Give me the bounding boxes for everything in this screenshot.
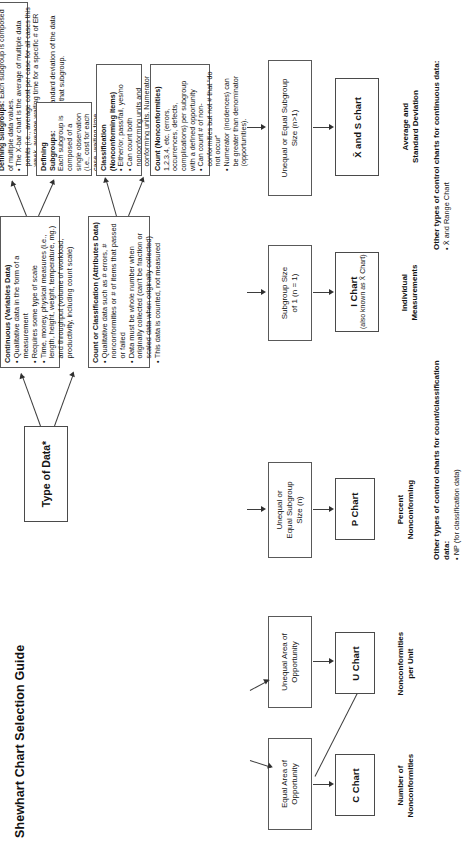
caption-u-chart: Nonconformities per Unit (380, 624, 432, 704)
connector-equal-area-to-c-chart (313, 784, 329, 785)
node-subgroup-size-n-label: Unequal or Equal Subgroup Size (n) (275, 481, 305, 538)
arrow-c-chart (329, 781, 334, 787)
node-subgroup-size-n-gt-1-label: Unequal or Equal Subgroup Size (n>1) (280, 79, 300, 178)
connector-size-n-1-to-i-chart (313, 292, 329, 293)
connector-unequal-area-to-u-chart (313, 661, 329, 662)
caption-i-chart: Individual Measurements (384, 248, 436, 338)
chart-p-chart-label: P Chart (350, 492, 361, 526)
note-count-classification-item-0: NP (for classification data) (452, 360, 462, 560)
chart-xbar-s-chart[interactable]: X̄ and S chart (335, 78, 379, 176)
node-subgroup-size-n-gt-1[interactable]: Unequal or Equal Subgroup Size (n>1) (268, 60, 312, 196)
caption-i-chart-text: Individual Measurements (400, 265, 419, 321)
node-equal-area[interactable]: Equal Area of Opportunity (268, 738, 312, 830)
note-continuous-item-0: X̄ and Range Chart (442, 50, 452, 250)
note-count-classification-heading: Other types of control charts for count/… (432, 360, 452, 560)
arrow-p-chart (329, 506, 334, 512)
chart-p-chart[interactable]: P Chart (335, 478, 375, 540)
caption-c-chart-text: Number of Nonconformities (396, 754, 415, 818)
caption-c-chart: Number of Nonconformities (380, 746, 432, 826)
caption-p-chart-text: Percent Nonconforming (396, 480, 415, 540)
chart-i-chart-sub: (also known as X̄ Chart) (359, 255, 367, 330)
node-unequal-area[interactable]: Unequal Area of Opportunity (268, 616, 312, 708)
node-unequal-area-label: Unequal Area of Opportunity (280, 633, 300, 690)
arrow-size-n (261, 506, 266, 512)
connector-classification-to-size-n (247, 509, 261, 510)
node-equal-area-label: Equal Area of Opportunity (280, 760, 300, 808)
note-continuous: Other types of control charts for contin… (432, 50, 472, 250)
caption-xbar-s-chart: Average and Standard Deviation (384, 72, 436, 182)
connector-size-n-gt-1-to-xbar-s (313, 127, 329, 128)
chart-c-chart-label: C Chart (350, 768, 361, 802)
node-subgroup-size-n-1[interactable]: Subgroup Size of 1 (n = 1) (268, 245, 312, 341)
chart-c-chart[interactable]: C Chart (335, 754, 375, 816)
node-subgroup-size-n[interactable]: Unequal or Equal Subgroup Size (n) (268, 462, 312, 558)
caption-u-chart-text: Nonconformities per Unit (396, 632, 415, 696)
arrow-xbar-s (329, 124, 334, 130)
connector-single-to-size-n-1 (247, 292, 261, 293)
arrow-u-chart (329, 658, 334, 664)
chart-u-chart[interactable]: U Chart (335, 632, 375, 694)
connector-size-n-to-p-chart (313, 509, 329, 510)
note-count-classification: Other types of control charts for count/… (432, 360, 472, 560)
note-continuous-heading: Other types of control charts for contin… (432, 50, 442, 250)
diagram-right-column: Unequal or Equal Subgroup Size (n>1) Sub… (0, 0, 476, 852)
chart-xbar-s-chart-label: X̄ and S chart (352, 97, 363, 158)
node-subgroup-size-n-1-label: Subgroup Size of 1 (n = 1) (280, 267, 300, 319)
chart-i-chart[interactable]: I Chart(also known as X̄ Chart) (335, 252, 379, 332)
chart-u-chart-label: U Chart (350, 646, 361, 680)
caption-xbar-s-chart-text: Average and Standard Deviation (400, 91, 419, 164)
chart-i-chart-label: I Chart(also known as X̄ Chart) (347, 255, 366, 330)
chart-i-chart-name: I Chart (347, 277, 358, 307)
caption-p-chart: Percent Nonconforming (380, 470, 432, 550)
arrow-i-chart (329, 289, 334, 295)
arrow-size-n-gt-1 (261, 124, 266, 130)
connector-multiple-to-size-n-gt-1 (247, 127, 261, 128)
arrow-size-n-1 (261, 289, 266, 295)
